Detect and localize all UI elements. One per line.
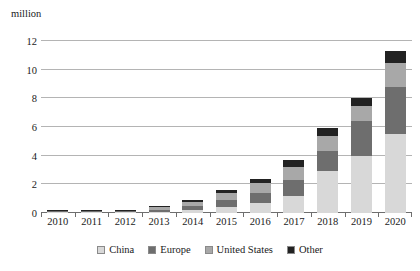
bar-segment xyxy=(351,121,372,155)
x-tick-label-2012: 2012 xyxy=(115,216,136,227)
legend-swatch-icon xyxy=(148,246,156,254)
bar-group xyxy=(115,210,136,213)
x-tick-mark xyxy=(108,212,109,217)
chart-legend: ChinaEuropeUnited StatesOther xyxy=(0,244,420,255)
bar-segment xyxy=(149,212,170,213)
bar-group xyxy=(216,190,237,213)
x-tick-label-2013: 2013 xyxy=(149,216,170,227)
bar-segment xyxy=(250,193,271,203)
x-tick-label-2010: 2010 xyxy=(47,216,68,227)
bar-segment xyxy=(351,106,372,122)
bar-group xyxy=(149,206,170,213)
bar-segment xyxy=(250,183,271,193)
bar-segment xyxy=(216,200,237,207)
bar-segment xyxy=(81,212,102,213)
bar-group xyxy=(385,51,406,213)
x-tick-label-2019: 2019 xyxy=(351,216,372,227)
bar-group xyxy=(81,210,102,213)
legend-label: China xyxy=(109,244,134,255)
bar-segment xyxy=(385,63,406,87)
x-tick-mark xyxy=(75,212,76,217)
bar-group xyxy=(351,98,372,213)
bar-segment xyxy=(47,212,68,213)
x-tick-mark xyxy=(345,212,346,217)
bar-segment xyxy=(250,203,271,213)
bar-segment xyxy=(385,87,406,134)
bar-segment xyxy=(283,196,304,213)
x-tick-label-2016: 2016 xyxy=(250,216,271,227)
x-tick-label-2018: 2018 xyxy=(317,216,338,227)
bar-segment xyxy=(351,156,372,213)
bar-segment xyxy=(317,136,338,152)
x-tick-mark xyxy=(277,212,278,217)
bar-segment xyxy=(351,98,372,105)
stacked-bar-chart: million 024681012 2010201120122013201420… xyxy=(0,0,420,271)
bars-layer xyxy=(41,41,412,213)
x-tick-label-2015: 2015 xyxy=(216,216,237,227)
legend-swatch-icon xyxy=(205,246,213,254)
bar-segment xyxy=(216,207,237,213)
x-tick-mark xyxy=(311,212,312,217)
bar-segment xyxy=(317,171,338,213)
legend-label: United States xyxy=(217,244,273,255)
y-tick-label-10: 10 xyxy=(7,64,37,75)
legend-item[interactable]: Europe xyxy=(148,244,190,255)
bar-segment xyxy=(283,160,304,167)
y-tick-label-2: 2 xyxy=(7,179,37,190)
x-tick-label-2011: 2011 xyxy=(81,216,102,227)
x-tick-label-2017: 2017 xyxy=(283,216,304,227)
bar-segment xyxy=(115,212,136,213)
x-tick-label-2014: 2014 xyxy=(182,216,203,227)
legend-label: Other xyxy=(299,244,323,255)
x-tick-mark xyxy=(142,212,143,217)
bar-group xyxy=(317,128,338,213)
bar-group xyxy=(283,160,304,213)
bar-segment xyxy=(385,134,406,213)
plot-area xyxy=(41,41,412,213)
bar-group xyxy=(182,200,203,213)
legend-item[interactable]: China xyxy=(97,244,134,255)
bar-group xyxy=(250,179,271,213)
bar-group xyxy=(47,210,68,213)
bar-segment xyxy=(317,128,338,135)
y-tick-label-12: 12 xyxy=(7,36,37,47)
y-tick-label-6: 6 xyxy=(7,122,37,133)
y-tick-label-0: 0 xyxy=(7,208,37,219)
x-tick-mark xyxy=(411,212,412,217)
legend-item[interactable]: Other xyxy=(287,244,323,255)
y-tick-label-4: 4 xyxy=(7,150,37,161)
legend-swatch-icon xyxy=(97,246,105,254)
bar-segment xyxy=(216,193,237,200)
y-axis-unit-label: million xyxy=(11,8,41,19)
bar-segment xyxy=(182,210,203,213)
bar-segment xyxy=(385,51,406,62)
x-tick-mark xyxy=(378,212,379,217)
x-tick-label-2020: 2020 xyxy=(385,216,406,227)
bar-segment xyxy=(283,180,304,196)
y-tick-label-8: 8 xyxy=(7,93,37,104)
legend-label: Europe xyxy=(160,244,190,255)
x-tick-mark xyxy=(176,212,177,217)
legend-item[interactable]: United States xyxy=(205,244,273,255)
x-tick-mark xyxy=(243,212,244,217)
legend-swatch-icon xyxy=(287,246,295,254)
x-tick-mark xyxy=(210,212,211,217)
bar-segment xyxy=(317,151,338,171)
x-tick-mark xyxy=(41,212,42,217)
bar-segment xyxy=(283,167,304,180)
